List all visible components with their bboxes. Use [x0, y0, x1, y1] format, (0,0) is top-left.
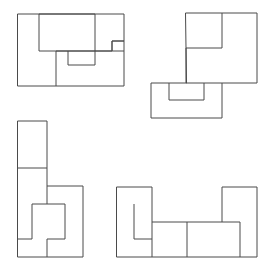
figure-top-right	[151, 13, 257, 118]
figure-top-left	[18, 14, 124, 86]
figure-bottom-right	[117, 187, 257, 257]
s-shape-outline	[151, 13, 257, 118]
rectangle-outline	[18, 14, 124, 86]
figure-bottom-left	[18, 121, 83, 257]
figure-sheet	[0, 0, 271, 270]
figures-canvas	[0, 0, 271, 270]
vertical-l-outline	[18, 121, 83, 257]
